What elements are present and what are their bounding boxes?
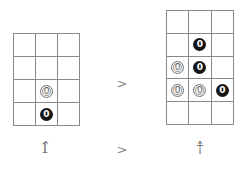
white-stone-icon: 0: [40, 85, 53, 98]
right-board-cell: 0: [212, 79, 234, 102]
right-board-cell: [167, 102, 189, 125]
left-board-cell: [14, 34, 36, 57]
white-stone-icon: 0: [193, 84, 206, 97]
left-board-cell: [58, 34, 80, 57]
greater-than-symbol-top: >: [117, 76, 128, 91]
left-board-cell: 0: [36, 80, 58, 103]
right-board-cell: [167, 34, 189, 57]
right-board-cell: [167, 11, 189, 34]
greater-than-symbol-bottom: >: [117, 142, 128, 157]
right-board-cell: [212, 11, 234, 34]
right-board-cell: 0: [167, 57, 189, 80]
black-stone-icon: 0: [193, 61, 206, 74]
white-stone-icon: 0: [171, 61, 184, 74]
left-board-cell: [14, 80, 36, 103]
left-board-label: 1̂: [41, 140, 50, 156]
black-stone-icon: 0: [193, 38, 206, 51]
left-board-cell: [14, 57, 36, 80]
black-stone-icon: 0: [216, 84, 229, 97]
left-board-cell: 0: [36, 103, 58, 126]
right-board: 000000: [166, 10, 234, 125]
white-stone-icon: 0: [171, 84, 184, 97]
right-board-cell: [212, 34, 234, 57]
right-board-cell: [189, 102, 211, 125]
right-board-cell: 0: [189, 57, 211, 80]
left-board-cell: [36, 57, 58, 80]
right-board-cell: 0: [167, 79, 189, 102]
right-board-cell: [189, 11, 211, 34]
right-board-cell: [212, 57, 234, 80]
left-board-cell: [14, 103, 36, 126]
left-board-cell: [58, 57, 80, 80]
left-board-cell: [58, 80, 80, 103]
right-board-cell: 0: [189, 34, 211, 57]
left-board: 00: [13, 33, 80, 126]
right-board-label: †̂: [197, 140, 204, 156]
left-board-cell: [58, 103, 80, 126]
right-board-cell: 0: [189, 79, 211, 102]
black-stone-icon: 0: [40, 108, 53, 121]
right-board-cell: [212, 102, 234, 125]
left-board-cell: [36, 34, 58, 57]
